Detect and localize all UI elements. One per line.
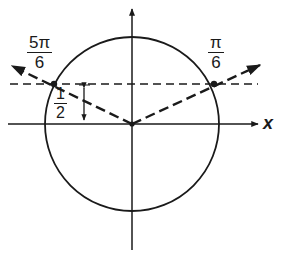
origin-point (129, 121, 134, 126)
height-denominator: 2 (56, 104, 65, 121)
height-numerator: 1 (54, 86, 67, 104)
angle-label-pi-6: π 6 (208, 34, 224, 71)
angle-numerator: π (208, 34, 224, 53)
point-pi-6 (211, 81, 217, 87)
ray-5pi-6 (12, 66, 132, 124)
angle-label-5pi-6: 5π 6 (27, 34, 52, 71)
angle-numerator: 5π (27, 34, 52, 53)
height-label-one-half: 1 2 (54, 86, 67, 121)
angle-denominator: 6 (211, 53, 220, 71)
ray-pi-6 (132, 65, 260, 124)
unit-circle-diagram: 5π 6 π 6 1 2 x (0, 0, 288, 261)
x-axis-label: x (263, 114, 273, 132)
angle-denominator: 6 (35, 53, 44, 71)
